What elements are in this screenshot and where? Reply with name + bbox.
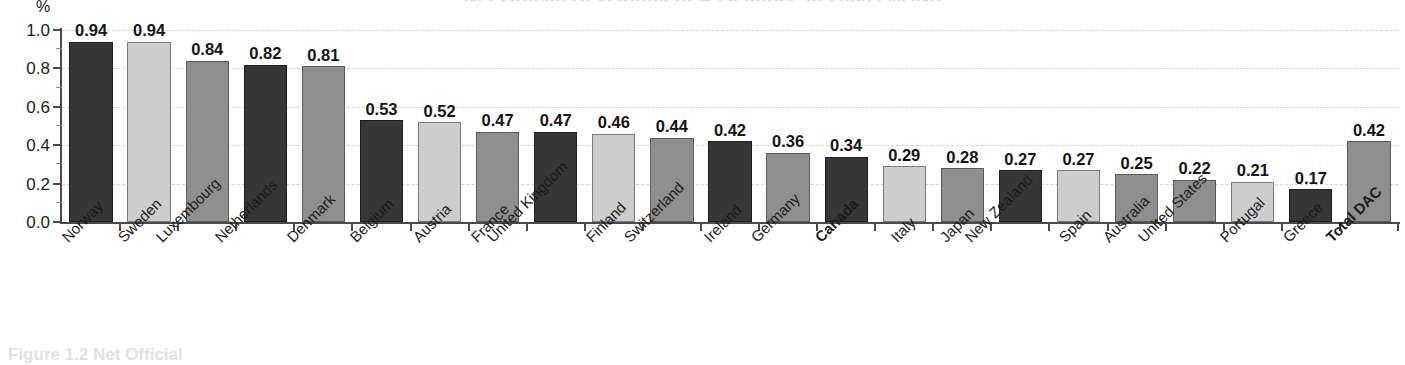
bar-france: 0.47	[476, 30, 519, 222]
bar-portugal: 0.21	[1231, 30, 1274, 222]
bar-italy: 0.29	[883, 30, 926, 222]
chart-title-clipped: Net Official Development Assistance in 2…	[0, 0, 1405, 1]
y-tick-0.2	[53, 183, 62, 185]
y-tick-0.8	[53, 67, 62, 69]
bar-value-label: 0.42	[697, 122, 762, 139]
bar-japan: 0.28	[941, 30, 984, 222]
bar-value-label: 0.28	[930, 149, 995, 166]
bar-value-label: 0.29	[872, 147, 937, 164]
bar-value-label: 0.25	[1104, 155, 1169, 172]
y-axis-label-0.2: 0.2	[4, 176, 50, 193]
bar-value-label: 0.52	[407, 103, 472, 120]
bar-value-label: 0.21	[1220, 162, 1285, 179]
x-tick	[932, 224, 934, 231]
bar-value-label: 0.94	[116, 22, 181, 39]
y-axis-label-0.8: 0.8	[4, 60, 50, 77]
bar-value-label: 0.81	[291, 47, 356, 64]
y-tick-0.4	[53, 144, 62, 146]
bar-value-label: 0.46	[581, 114, 646, 131]
bar-value-label: 0.17	[1278, 170, 1343, 187]
bar-sweden: 0.94	[127, 30, 170, 222]
bar-value-label: 0.34	[814, 137, 879, 154]
percent-unit-label: %	[36, 0, 50, 16]
bar-australia: 0.25	[1115, 30, 1158, 222]
x-tick	[874, 224, 876, 231]
bar-greece: 0.17	[1289, 30, 1332, 222]
bar-value-label: 0.94	[58, 22, 123, 39]
x-tick	[1048, 224, 1050, 231]
bar-rect	[69, 42, 112, 222]
x-tick	[526, 224, 528, 231]
bar-value-label: 0.47	[523, 112, 588, 129]
bar-ireland: 0.42	[708, 30, 751, 222]
bar-rect	[883, 166, 926, 222]
bar-value-label: 0.36	[755, 133, 820, 150]
bar-value-label: 0.27	[1046, 151, 1111, 168]
bar-austria: 0.52	[418, 30, 461, 222]
bar-spain: 0.27	[1057, 30, 1100, 222]
bar-value-label: 0.82	[233, 45, 298, 62]
y-axis-label-0.0: 0.0	[4, 214, 50, 231]
bar-value-label: 0.27	[988, 151, 1053, 168]
footer-caption-clipped: Figure 1.2 Net Official	[8, 345, 183, 365]
bar-finland: 0.46	[592, 30, 635, 222]
bar-value-label: 0.47	[465, 112, 530, 129]
x-tick	[1397, 224, 1399, 231]
bar-canada: 0.34	[825, 30, 868, 222]
y-axis-label-0.6: 0.6	[4, 99, 50, 116]
bar-rect	[127, 42, 170, 222]
y-tick-0.6	[53, 106, 62, 108]
bar-belgium: 0.53	[360, 30, 403, 222]
y-axis-label-1.0: 1.0	[4, 22, 50, 39]
bar-value-label: 0.42	[1336, 122, 1401, 139]
bar-value-label: 0.84	[175, 41, 240, 58]
y-tick-0.0	[53, 221, 62, 223]
bar-norway: 0.94	[69, 30, 112, 222]
bar-value-label: 0.44	[639, 118, 704, 135]
x-tick	[700, 224, 702, 231]
y-axis-label-0.4: 0.4	[4, 137, 50, 154]
bar-value-label: 0.53	[349, 101, 414, 118]
